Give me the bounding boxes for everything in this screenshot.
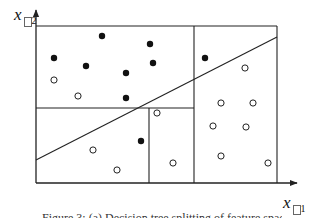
open-point [242, 65, 248, 71]
frame [36, 26, 277, 183]
filled-point [83, 63, 89, 69]
open-point [170, 160, 176, 166]
open-point [250, 100, 256, 106]
filled-point [99, 33, 105, 39]
open-point [210, 123, 216, 129]
filled-point [147, 41, 153, 47]
filled-point [123, 95, 129, 101]
open-point [51, 77, 57, 83]
open-point [218, 100, 224, 106]
x-axis-label-sub: 1 [292, 203, 306, 214]
x-axis-label: x1 [283, 193, 306, 213]
figure-caption: Figure 3: (a) Decision tree splitting of… [42, 212, 282, 218]
feature-space-diagram [0, 0, 313, 218]
decision-line [36, 37, 277, 160]
filled-point [138, 138, 144, 144]
open-point [114, 167, 120, 173]
y-axis-label-sub: 2 [23, 15, 37, 26]
filled-point [202, 55, 208, 61]
filled-point [150, 60, 156, 66]
open-point [154, 110, 160, 116]
data-points [51, 33, 271, 173]
decision-boundary [36, 37, 277, 160]
figure-caption-text: Figure 3: (a) Decision tree splitting of… [42, 212, 282, 218]
open-point [265, 160, 271, 166]
y-axis-label-var: x [14, 5, 22, 24]
filled-point [123, 70, 129, 76]
y-axis-label: x2 [14, 5, 37, 25]
open-point [218, 153, 224, 159]
partition-lines [36, 26, 194, 183]
missing-glyph-icon [293, 205, 301, 215]
x-axis-label-var: x [283, 193, 291, 212]
missing-glyph-icon [24, 17, 32, 27]
open-point [75, 93, 81, 99]
open-point [90, 147, 96, 153]
open-point [243, 124, 249, 130]
filled-point [51, 55, 57, 61]
